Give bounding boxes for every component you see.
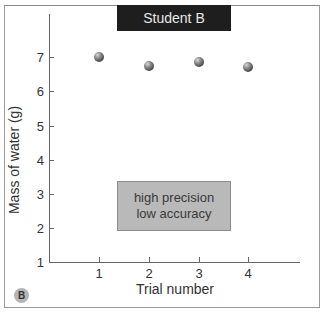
- chart-title: Student B: [117, 5, 231, 31]
- y-tick-mark: [49, 57, 54, 58]
- data-point: [94, 52, 104, 62]
- data-point: [194, 57, 204, 67]
- chart-title-text: Student B: [143, 10, 205, 26]
- y-tick-mark: [49, 262, 54, 263]
- x-tick-label: 1: [92, 266, 106, 281]
- x-axis-title: Trial number: [100, 281, 250, 297]
- x-tick-label: 3: [192, 266, 206, 281]
- annotation-line-1: high precision: [134, 190, 214, 206]
- annotation-line-2: low accuracy: [136, 206, 211, 222]
- x-tick-mark: [99, 257, 100, 262]
- x-tick-mark: [149, 257, 150, 262]
- y-tick-mark: [49, 91, 54, 92]
- panel-label-badge: B: [14, 288, 29, 303]
- y-tick-mark: [49, 160, 54, 161]
- x-tick-mark: [199, 257, 200, 262]
- x-tick-label: 4: [241, 266, 255, 281]
- y-tick-label: 6: [30, 84, 44, 99]
- y-tick-label: 3: [30, 187, 44, 202]
- y-tick-label: 1: [30, 255, 44, 270]
- y-axis-title: Mass of water (g): [6, 106, 22, 214]
- y-tick-label: 5: [30, 119, 44, 134]
- x-tick-mark: [248, 257, 249, 262]
- y-tick-label: 2: [30, 221, 44, 236]
- annotation-box: high precision low accuracy: [117, 181, 231, 231]
- y-tick-mark: [49, 126, 54, 127]
- data-point: [243, 62, 253, 72]
- y-tick-mark: [49, 194, 54, 195]
- y-axis-line: [49, 14, 50, 262]
- y-tick-label: 7: [30, 50, 44, 65]
- x-axis-line: [49, 262, 300, 263]
- y-tick-label: 4: [30, 153, 44, 168]
- panel-label-text: B: [18, 290, 25, 301]
- x-tick-label: 2: [142, 266, 156, 281]
- y-tick-mark: [49, 228, 54, 229]
- data-point: [144, 61, 154, 71]
